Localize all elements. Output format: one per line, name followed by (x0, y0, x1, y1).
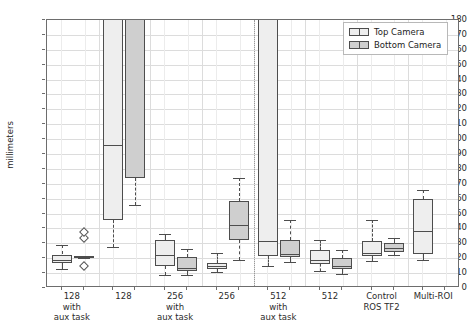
x-tick-mark (341, 287, 342, 290)
whisker-cap-upper (314, 240, 326, 241)
whisker-upper (423, 190, 424, 199)
y-tick-mark (42, 49, 45, 50)
x-tick-mark (289, 287, 290, 290)
box (332, 258, 352, 269)
x-tick-mark (134, 287, 135, 290)
median-line (52, 260, 72, 261)
x-tick-mark (112, 287, 113, 290)
y-tick-mark (42, 108, 45, 109)
whisker-cap-lower (262, 266, 274, 267)
median-line (384, 248, 404, 249)
whisker-cap-upper (56, 245, 68, 246)
y-tick-mark (42, 257, 45, 258)
y-tick-mark (42, 19, 45, 20)
whisker-cap-lower (181, 275, 193, 276)
whisker-lower (135, 178, 136, 206)
y-tick-mark (42, 242, 45, 243)
y-tick-mark (42, 287, 45, 288)
whisker-upper (165, 234, 166, 241)
whisker-lower (239, 240, 240, 261)
median-line (362, 253, 382, 254)
y-tick-mark (42, 198, 45, 199)
gridline-vertical-minor (446, 20, 447, 286)
median-line (258, 241, 278, 242)
whisker-lower (62, 263, 63, 270)
whisker-cap-upper (417, 190, 429, 191)
whisker-cap-lower (388, 255, 400, 256)
whisker-upper (187, 249, 188, 257)
legend-median-line (359, 29, 360, 35)
whisker-cap-lower (314, 271, 326, 272)
gridline-horizontal (47, 228, 458, 229)
legend-label: Top Camera (374, 27, 424, 37)
x-tick-label: Multi-ROI (398, 291, 467, 302)
whisker-lower (320, 264, 321, 271)
median-line (332, 266, 352, 267)
whisker-upper (290, 220, 291, 240)
legend-swatch (349, 28, 369, 36)
boxplot-figure: millimeters 0102030405060708090100110120… (0, 0, 467, 333)
y-tick-mark (42, 34, 45, 35)
whisker-cap-lower (284, 262, 296, 263)
whisker-cap-upper (284, 220, 296, 221)
median-line (280, 254, 300, 255)
box (52, 255, 72, 263)
y-tick-mark (42, 213, 45, 214)
y-tick-mark (42, 123, 45, 124)
x-tick-mark (422, 287, 423, 290)
median-line (74, 257, 94, 258)
box (103, 19, 123, 220)
x-tick-mark (319, 287, 320, 290)
gridline-vertical (150, 20, 151, 286)
y-tick-mark (42, 138, 45, 139)
gridline-vertical (408, 20, 409, 286)
gridline-vertical-minor (343, 20, 344, 286)
y-tick-mark (42, 227, 45, 228)
median-line (207, 266, 227, 267)
box (229, 201, 249, 240)
whisker-lower (113, 220, 114, 247)
whisker-lower (268, 256, 269, 266)
legend: Top CameraBottom Camera (343, 22, 448, 55)
gridline-vertical (202, 20, 203, 286)
median-line (413, 231, 433, 232)
whisker-lower (165, 266, 166, 275)
whisker-cap-upper (233, 178, 245, 179)
y-tick-mark (42, 64, 45, 65)
legend-item: Top Camera (349, 27, 441, 37)
x-tick-mark (267, 287, 268, 290)
y-tick-mark (42, 153, 45, 154)
gridline-vertical-dotted (254, 20, 255, 286)
legend-label: Bottom Camera (374, 40, 441, 50)
gridline-vertical-minor (188, 20, 189, 286)
gridline-vertical (99, 20, 100, 286)
whisker-cap-upper (159, 234, 171, 235)
box (310, 250, 330, 264)
whisker-cap-lower (107, 247, 119, 248)
gridline-vertical-minor (216, 20, 217, 286)
whisker-cap-upper (388, 238, 400, 239)
y-axis-title: millimeters (1, 0, 19, 290)
whisker-upper (320, 240, 321, 250)
gridline-vertical-minor (85, 20, 86, 286)
whisker-cap-lower (159, 275, 171, 276)
whisker-cap-lower (211, 272, 223, 273)
median-line (103, 145, 123, 146)
gridline-horizontal (47, 273, 458, 274)
legend-median-line (359, 42, 360, 48)
whisker-upper (239, 178, 240, 201)
whisker-upper (217, 253, 218, 263)
whisker-cap-upper (336, 250, 348, 251)
whisker-cap-lower (336, 274, 348, 275)
whisker-upper (62, 245, 63, 255)
y-tick-mark (42, 79, 45, 80)
whisker-cap-lower (56, 269, 68, 270)
gridline-vertical (305, 20, 306, 286)
median-line (310, 260, 330, 261)
x-tick-mark (164, 287, 165, 290)
y-tick-mark (42, 272, 45, 273)
whisker-cap-upper (181, 249, 193, 250)
plot-area (46, 19, 459, 287)
x-tick-mark (238, 287, 239, 290)
median-line (155, 255, 175, 256)
